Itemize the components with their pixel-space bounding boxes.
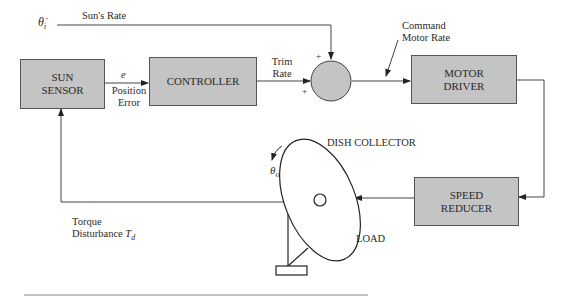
controller-block: CONTROLLER <box>149 57 257 106</box>
speed-reducer-block: SPEED REDUCER <box>414 177 519 226</box>
motor-driver-block: MOTOR DRIVER <box>411 55 517 104</box>
command-pointer <box>386 40 398 76</box>
error-symbol: e <box>121 69 126 81</box>
trim-rate-label: Trim Rate <box>266 56 298 80</box>
summing-junction <box>311 61 351 101</box>
motor-driver-line1: MOTOR <box>444 67 485 80</box>
sun-sensor-line2: SENSOR <box>41 84 83 97</box>
controller-label: CONTROLLER <box>167 75 240 88</box>
dish-collector-label: DISH COLLECTOR <box>327 137 416 149</box>
position-error-label: Position Error <box>108 85 150 109</box>
input-theta-dot: θ̇i <box>38 16 46 33</box>
diagram-lines <box>0 0 564 299</box>
output-theta: θo <box>270 164 279 181</box>
feedback-line <box>61 109 284 202</box>
plus-sign-top: + <box>316 50 321 62</box>
load-label: LOAD <box>356 233 385 245</box>
suns-rate-line <box>57 25 331 59</box>
sun-sensor-block: SUN SENSOR <box>20 59 105 109</box>
command-motor-rate-label: Command Motor Rate <box>402 20 450 44</box>
dish-center <box>314 194 326 206</box>
speed-reducer-line2: REDUCER <box>441 202 492 215</box>
torque-disturbance-label: Torque Disturbance Td <box>72 216 135 244</box>
suns-rate-label: Sun's Rate <box>82 10 126 22</box>
rotation-arrow-icon <box>272 146 282 160</box>
driver-to-reducer-line <box>516 80 544 197</box>
speed-reducer-line1: SPEED <box>441 189 492 202</box>
motor-driver-line2: DRIVER <box>444 80 485 93</box>
sun-sensor-line1: SUN <box>41 71 83 84</box>
plus-sign-bottom: + <box>302 85 307 97</box>
